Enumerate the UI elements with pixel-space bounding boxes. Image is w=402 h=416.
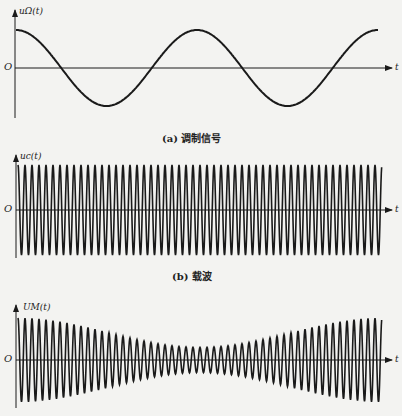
panel-c-xlabel: t bbox=[395, 354, 399, 364]
panel-a-origin: O bbox=[4, 61, 12, 72]
panel-b-xlabel: t bbox=[395, 204, 399, 214]
am-modulation-diagram bbox=[0, 0, 402, 416]
panel-a-ylabel: uΩ(t) bbox=[19, 6, 43, 16]
panel-a-caption: (a) 调制信号 bbox=[162, 130, 221, 145]
panel-b-origin: O bbox=[4, 203, 12, 214]
panel-c-origin: O bbox=[4, 353, 12, 364]
panel-c-ylabel: UM(t) bbox=[23, 302, 50, 312]
panel-a-xlabel: t bbox=[395, 62, 399, 72]
panel-b-ylabel: uc(t) bbox=[20, 151, 41, 161]
panel-b-caption: (b) 载波 bbox=[172, 268, 212, 283]
